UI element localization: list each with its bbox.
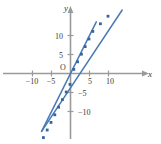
- data-point-marker: [57, 106, 60, 109]
- data-point-marker: [84, 45, 87, 48]
- data-point-marker: [72, 68, 75, 71]
- data-point-marker: [69, 83, 72, 86]
- coordinate-plane-figure: x y O −10 −5 5 10 10 5 −5 −10: [0, 0, 161, 144]
- y-tick-label-pos10: 10: [55, 32, 63, 41]
- y-tick-label-pos5: 5: [59, 51, 63, 60]
- x-tick-label-pos5: 5: [88, 77, 92, 86]
- data-point-marker: [50, 121, 53, 124]
- data-point-marker: [53, 113, 56, 116]
- data-point-marker: [99, 22, 102, 25]
- y-axis-label: y: [63, 3, 68, 13]
- x-tick-label-neg5: −5: [47, 77, 56, 86]
- data-point-marker: [88, 38, 91, 41]
- data-point-marker: [42, 136, 45, 139]
- data-point-marker: [76, 60, 79, 63]
- origin-label: O: [60, 63, 66, 72]
- data-point-marker: [107, 15, 110, 18]
- data-point-marker: [91, 30, 94, 33]
- x-axis-label: x: [147, 69, 152, 79]
- data-point-marker: [65, 91, 68, 94]
- y-tick-label-neg5: −5: [78, 89, 87, 98]
- y-tick-label-neg10: −10: [78, 108, 91, 117]
- data-point-marker: [46, 129, 49, 132]
- x-tick-label-pos10: 10: [106, 77, 114, 86]
- x-tick-label-neg10: −10: [26, 77, 39, 86]
- data-point-marker: [61, 98, 64, 101]
- graph-canvas: x y O −10 −5 5 10 10 5 −5 −10: [0, 0, 161, 144]
- data-point-marker: [80, 53, 83, 56]
